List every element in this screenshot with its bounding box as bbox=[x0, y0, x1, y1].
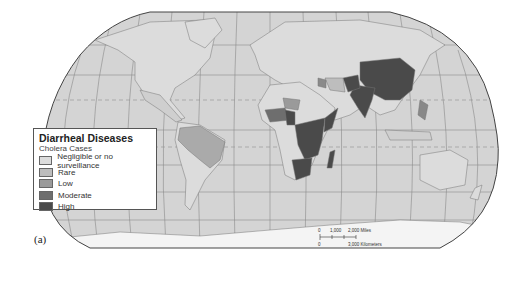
panel-label: (a) bbox=[34, 233, 46, 245]
legend-title: Diarrheal Diseases bbox=[39, 132, 151, 144]
legend-swatch bbox=[39, 156, 52, 165]
niger-chad bbox=[283, 98, 300, 110]
scale-miles-1000: 1,000 bbox=[330, 228, 342, 233]
legend: Diarrheal Diseases Cholera Cases Negligi… bbox=[33, 128, 157, 210]
legend-item-moderate: Moderate bbox=[39, 190, 151, 202]
legend-swatch bbox=[39, 202, 53, 211]
legend-label: Rare bbox=[58, 168, 75, 177]
legend-label: High bbox=[58, 202, 74, 211]
middle-east-iraq bbox=[318, 78, 326, 88]
nigeria bbox=[285, 110, 295, 125]
legend-swatch bbox=[39, 179, 53, 188]
scale-miles-2000: 2,000 Miles bbox=[348, 228, 372, 233]
legend-item-high: High bbox=[39, 201, 151, 213]
legend-item-low: Low bbox=[39, 178, 151, 190]
legend-swatch bbox=[39, 168, 53, 177]
legend-item-negligible: Negligible or no surveillance bbox=[39, 155, 151, 167]
legend-swatch bbox=[39, 191, 53, 200]
scale-km-3000: 3,000 Kilometers bbox=[348, 242, 383, 247]
legend-label: Low bbox=[58, 179, 73, 188]
legend-label: Moderate bbox=[58, 191, 92, 200]
